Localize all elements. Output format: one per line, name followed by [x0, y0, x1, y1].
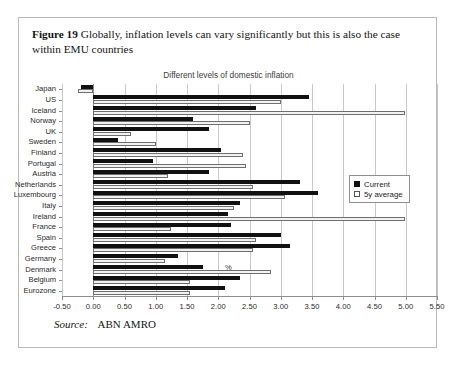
y-category-tick	[59, 206, 62, 207]
figure-card: Figure 19 Globally, inflation levels can…	[18, 17, 437, 348]
y-category-tick	[59, 111, 62, 112]
legend-swatch-average-icon	[354, 191, 360, 197]
bar-average	[93, 100, 281, 104]
y-category-label: Luxembourg	[14, 190, 56, 199]
y-category-tick	[59, 164, 62, 165]
source-line: Source: ABN AMRO	[54, 318, 156, 330]
bar-current	[93, 180, 299, 184]
y-category-label: Finland	[31, 148, 56, 157]
bar-current	[93, 212, 227, 216]
source-label: Source:	[54, 318, 88, 330]
y-category-label: Spain	[37, 233, 56, 242]
bar-average	[93, 195, 285, 199]
bar-current	[93, 148, 221, 152]
x-axis-line	[62, 296, 437, 297]
y-category-tick	[59, 132, 62, 133]
y-category-tick	[59, 142, 62, 143]
y-category-tick	[59, 259, 62, 260]
y-category-label: US	[45, 95, 56, 104]
x-tick	[437, 296, 438, 300]
bar-current	[93, 106, 256, 110]
legend-swatch-current-icon	[354, 181, 360, 187]
y-category-label: Austria	[32, 169, 56, 178]
legend-label-current: Current	[364, 180, 390, 189]
y-category-label: France	[32, 222, 56, 231]
legend-entry-average: 5y average	[354, 189, 403, 199]
bar-average	[93, 153, 243, 157]
legend-entry-current: Current	[354, 179, 403, 189]
figure-caption: Figure 19 Globally, inflation levels can…	[32, 27, 424, 57]
y-category-tick	[59, 174, 62, 175]
bar-average	[93, 227, 171, 231]
bar-current	[93, 244, 290, 248]
source-value: ABN AMRO	[98, 318, 156, 330]
bar-average	[93, 248, 252, 252]
y-category-label: Portugal	[28, 159, 56, 168]
y-category-label: Iceland	[32, 106, 57, 115]
bar-current	[93, 95, 309, 99]
legend-label-average: 5y average	[364, 190, 403, 199]
bar-average	[93, 291, 190, 295]
bar-average	[93, 206, 234, 210]
bar-average	[93, 121, 249, 125]
bar-average	[78, 89, 94, 93]
bar-current	[93, 201, 240, 205]
y-category-label: Sweden	[29, 137, 56, 146]
bar-current	[93, 191, 318, 195]
y-category-tick	[59, 195, 62, 196]
figure-caption-text: Globally, inflation levels can vary sign…	[32, 28, 400, 55]
y-category-tick	[59, 217, 62, 218]
bar-current	[93, 159, 152, 163]
bar-average	[93, 174, 168, 178]
y-category-label: Italy	[42, 201, 56, 210]
bar-current	[93, 254, 177, 258]
y-category-tick	[59, 89, 62, 90]
y-category-label: Ireland	[33, 212, 56, 221]
y-category-tick	[59, 121, 62, 122]
bar-current	[93, 127, 209, 131]
bar-average	[93, 142, 156, 146]
y-category-tick	[59, 291, 62, 292]
y-category-label: Germany	[25, 254, 56, 263]
bar-current	[93, 233, 281, 237]
bar-current	[93, 117, 193, 121]
y-category-label: UK	[45, 127, 56, 136]
bar-average	[93, 111, 404, 115]
y-category-label: Japan	[35, 84, 56, 93]
bar-average	[93, 164, 246, 168]
chart-legend: Current 5y average	[349, 175, 410, 203]
bar-current	[93, 170, 209, 174]
bar-current	[93, 286, 224, 290]
bar-average	[93, 217, 404, 221]
y-category-label: Norway	[30, 116, 56, 125]
x-tick-label: 5.50	[417, 302, 457, 311]
chart-title: Different levels of domestic inflation	[19, 70, 438, 80]
bar-average	[93, 132, 131, 136]
y-category-label: Eurozone	[23, 286, 56, 295]
y-category-tick	[59, 185, 62, 186]
figure-label: Figure 19	[32, 28, 78, 40]
y-category-tick	[59, 248, 62, 249]
bar-average	[93, 185, 252, 189]
bar-average	[93, 280, 190, 284]
bar-current	[81, 85, 94, 89]
y-category-tick	[59, 153, 62, 154]
y-category-label: Belgium	[29, 275, 56, 284]
x-axis-title: %	[19, 263, 438, 272]
bar-average	[93, 238, 256, 242]
y-category-tick	[59, 238, 62, 239]
y-category-tick	[59, 227, 62, 228]
bar-current	[93, 138, 118, 142]
bar-current	[93, 276, 240, 280]
y-category-label: Greece	[31, 243, 56, 252]
y-category-tick	[59, 100, 62, 101]
y-category-tick	[59, 280, 62, 281]
bar-current	[93, 223, 231, 227]
y-category-label: Netherlands	[15, 180, 56, 189]
